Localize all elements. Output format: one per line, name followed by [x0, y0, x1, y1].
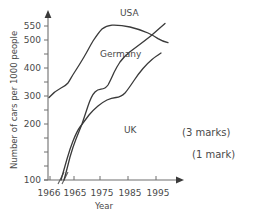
exam-question-figure: 550 500 400 300 200 100 1966 1965 1975 1…: [0, 0, 270, 215]
series-line-uk: [61, 53, 161, 180]
series-line-germany: [64, 24, 165, 181]
x-tick-label-0: 1966: [38, 188, 61, 198]
y-tick-label-200: 200: [24, 119, 41, 129]
cars-per-1000-line-chart: 550 500 400 300 200 100 1966 1965 1975 1…: [0, 0, 270, 215]
y-tick-label-500: 500: [24, 35, 41, 45]
marks-annotation-block: (3 marks) (1 mark): [182, 128, 266, 160]
x-tick-label-1: 1965: [64, 188, 87, 198]
y-tick-label-400: 400: [24, 63, 41, 73]
y-tick-label-300: 300: [24, 91, 41, 101]
y-axis: [45, 10, 52, 180]
marks-secondary: (1 mark): [192, 150, 266, 160]
y-axis-ticks: [44, 26, 48, 180]
y-axis-title: Number of cars per 1000 people: [9, 31, 19, 169]
series-label-germany: Germany: [100, 49, 142, 59]
y-tick-label-100: 100: [24, 175, 41, 185]
x-tick-label-2: 1975: [91, 188, 114, 198]
marks-primary: (3 marks): [182, 128, 266, 138]
x-axis-arrowhead: [176, 177, 184, 184]
y-tick-label-550: 550: [24, 21, 41, 31]
x-axis-title: Year: [94, 201, 114, 211]
y-axis-arrowhead: [45, 10, 52, 18]
x-tick-label-3: 1985: [119, 188, 142, 198]
series-label-usa: USA: [120, 8, 139, 18]
series-label-uk: UK: [124, 125, 138, 135]
x-tick-label-4: 1995: [147, 188, 170, 198]
